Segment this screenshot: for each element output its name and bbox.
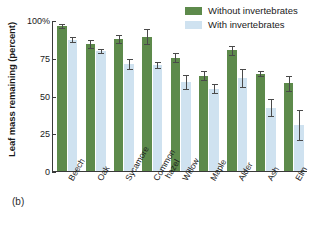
error-bar — [289, 76, 290, 91]
legend-label: Without invertebrates — [208, 5, 298, 16]
bar-group — [57, 20, 77, 171]
bar[interactable] — [256, 74, 266, 171]
error-bar-cap — [183, 89, 189, 90]
error-bar-cap — [201, 71, 207, 72]
y-tick-label: 100% — [20, 16, 50, 26]
error-bar — [186, 75, 187, 89]
error-bar-cap — [144, 29, 150, 30]
panel-letter: (b) — [12, 196, 24, 207]
legend-item[interactable]: Without invertebrates — [185, 5, 298, 16]
y-tick-label: 25 — [20, 129, 50, 139]
error-bar-cap — [212, 84, 218, 85]
error-bar-cap — [297, 140, 303, 141]
error-bar-cap — [201, 80, 207, 81]
error-bar-cap — [229, 46, 235, 47]
bar[interactable] — [238, 78, 248, 171]
bar[interactable] — [114, 39, 124, 171]
error-bar-cap — [258, 76, 264, 77]
error-bar-cap — [286, 76, 292, 77]
error-bar-cap — [240, 87, 246, 88]
error-bar — [299, 110, 300, 140]
bar[interactable] — [266, 108, 276, 171]
y-tick-mark — [52, 97, 56, 98]
error-bar-cap — [212, 93, 218, 94]
bar[interactable] — [86, 44, 96, 171]
bar-group — [256, 20, 276, 171]
error-bar — [214, 84, 215, 93]
error-bar-cap — [116, 35, 122, 36]
error-bar-cap — [127, 69, 133, 70]
bar[interactable] — [284, 83, 294, 171]
error-bar-cap — [59, 28, 65, 29]
error-bar — [129, 59, 130, 70]
error-bar-cap — [155, 68, 161, 69]
bar[interactable] — [199, 76, 209, 171]
y-tick-mark — [52, 172, 56, 173]
error-bar-cap — [88, 40, 94, 41]
error-bar — [242, 69, 243, 87]
error-bar-cap — [240, 69, 246, 70]
y-tick-label: 75 — [20, 54, 50, 64]
bar-group — [199, 20, 219, 171]
error-bar — [119, 35, 120, 43]
bar-group — [171, 20, 191, 171]
bar-group — [86, 20, 106, 171]
error-bar-cap — [127, 59, 133, 60]
error-bar-cap — [59, 24, 65, 25]
error-bar-cap — [173, 53, 179, 54]
bar[interactable] — [96, 51, 106, 171]
error-bar-cap — [297, 110, 303, 111]
plot-area — [52, 21, 307, 172]
error-bar — [90, 40, 91, 48]
bar-group — [114, 20, 134, 171]
error-bar-cap — [286, 91, 292, 92]
y-axis-title-text: Leaf mass remaining (percent) — [6, 22, 17, 157]
error-bar-cap — [98, 49, 104, 50]
error-bar-cap — [98, 53, 104, 54]
bar-group — [227, 20, 247, 171]
y-tick-mark — [52, 21, 56, 22]
bar[interactable] — [227, 50, 237, 171]
y-tick-mark — [52, 134, 56, 135]
y-tick-label: 50 — [20, 92, 50, 102]
plot-inner — [53, 21, 307, 171]
legend-swatch-dark — [185, 7, 202, 15]
bar[interactable] — [68, 40, 78, 171]
y-tick-label: 0 — [20, 167, 50, 177]
error-bar-cap — [229, 55, 235, 56]
error-bar-cap — [173, 62, 179, 63]
error-bar — [147, 29, 148, 44]
bar-group — [284, 20, 304, 171]
bar[interactable] — [153, 65, 163, 171]
error-bar — [232, 46, 233, 55]
bar[interactable] — [57, 26, 67, 171]
error-bar-cap — [70, 42, 76, 43]
error-bar — [271, 99, 272, 116]
y-tick-mark — [52, 59, 56, 60]
bar[interactable] — [209, 89, 219, 171]
error-bar-cap — [144, 44, 150, 45]
error-bar — [204, 71, 205, 80]
error-bar-cap — [70, 37, 76, 38]
error-bar-cap — [88, 48, 94, 49]
error-bar-cap — [183, 75, 189, 76]
error-bar-cap — [268, 116, 274, 117]
chart-figure: Leaf mass remaining (percent) 0255075100… — [0, 0, 313, 234]
error-bar-cap — [155, 62, 161, 63]
error-bar — [175, 53, 176, 62]
error-bar-cap — [268, 99, 274, 100]
error-bar-cap — [258, 71, 264, 72]
bar[interactable] — [124, 64, 134, 171]
error-bar-cap — [116, 43, 122, 44]
